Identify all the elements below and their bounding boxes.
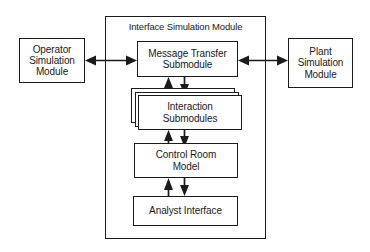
operator-simulation-module-node[interactable]: Operator Simulation Module <box>19 38 85 83</box>
control-room-model-node[interactable]: Control Room Model <box>134 143 238 178</box>
arrow-operator-message <box>85 56 137 66</box>
interface-simulation-module-label: Interface Simulation Module <box>105 21 266 32</box>
plant-simulation-module-node[interactable]: Plant Simulation Module <box>288 38 353 88</box>
interaction-submodules-node[interactable]: Interaction Submodules <box>138 95 242 130</box>
analyst-interface-node[interactable]: Analyst Interface <box>133 196 238 226</box>
message-transfer-submodule-node[interactable]: Message Transfer Submodule <box>137 41 238 77</box>
interface-simulation-diagram: Interface Simulation Module <box>0 0 370 252</box>
interaction-submodules-stack[interactable]: Interaction Submodules <box>131 88 242 130</box>
arrow-control-room-analyst <box>164 178 189 196</box>
arrow-message-plant <box>238 56 288 66</box>
